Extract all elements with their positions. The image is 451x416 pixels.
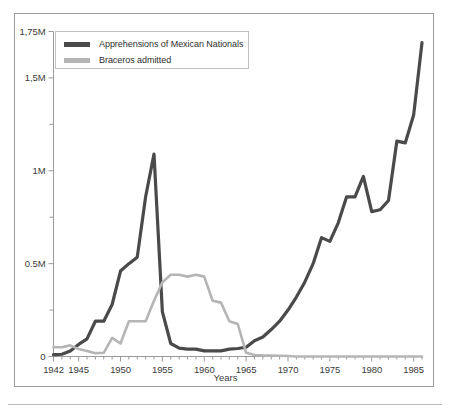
chart-figure: 00.5M1M1,5M1,75M 19421945195019551960196… [0,0,451,416]
y-axis-tick-label: 1,75M [6,26,46,37]
legend-swatch-braceros [64,58,90,63]
legend-label-apprehensions: Apprehensions of Mexican Nationals [99,39,243,49]
chart-legend: Apprehensions of Mexican Nationals Brace… [55,31,249,69]
legend-swatch-apprehensions [64,42,90,47]
x-axis-title: Years [0,372,451,383]
legend-item-apprehensions: Apprehensions of Mexican Nationals [64,37,240,51]
y-axis-tick-label: 0.5M [6,258,46,269]
legend-label-braceros: Braceros admitted [99,55,171,65]
y-axis-tick-label: 0 [6,351,46,362]
y-axis-tick-label: 1M [6,165,46,176]
legend-item-braceros: Braceros admitted [64,53,240,67]
y-axis-tick-label: 1,5M [6,72,46,83]
